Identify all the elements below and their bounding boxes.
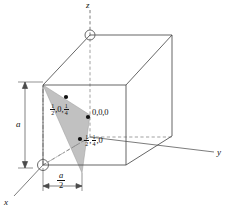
- circle-marker-top: [85, 30, 95, 40]
- hdim-arrow-left: [43, 184, 49, 189]
- y-axis-label: y: [217, 148, 221, 157]
- vdim-arrow-top: [22, 82, 27, 89]
- z-axis-label: z: [86, 1, 90, 10]
- x-axis-label: x: [4, 198, 8, 207]
- crystallography-figure: z y x 1 2 ,0, 1 4 0,0,0 1 2 , 1 4 ,0 a a…: [0, 0, 231, 216]
- figure-canvas: [0, 0, 231, 216]
- fraction-a-over-2: a 2: [57, 171, 65, 190]
- vertical-dimension-line: [18, 82, 43, 168]
- dot-half-0-quarter: [64, 95, 68, 99]
- vdim-arrow-bottom: [22, 162, 27, 169]
- point-label-half-quarter-0: 1 2 , 1 4 ,0: [84, 134, 103, 147]
- fraction-one-quarter-b: 1 4: [92, 134, 97, 147]
- dot-origin: [86, 115, 90, 119]
- horizontal-dimension-label: a 2: [57, 171, 65, 191]
- point-label-half-0-quarter: 1 2 ,0, 1 4: [50, 103, 69, 116]
- cube-edge-top-left-back: [43, 35, 90, 85]
- fraction-one-half-b: 1 2: [84, 134, 89, 147]
- point-label-origin: 0,0,0: [92, 108, 109, 117]
- dot-half-quarter-0: [78, 137, 82, 141]
- x-axis-line: [14, 165, 43, 196]
- vertical-dimension-label: a: [16, 120, 21, 129]
- cube-edge-bottom-right: [126, 136, 172, 165]
- coord-mid-a: ,0,: [55, 104, 63, 114]
- cube-edge-top-front-right: [126, 35, 172, 85]
- fraction-one-quarter-a: 1 4: [64, 103, 69, 116]
- coord-tail-b: ,0: [97, 135, 103, 145]
- y-axis-line: [90, 137, 214, 152]
- fraction-one-half-a: 1 2: [50, 103, 55, 116]
- hdim-arrow-right: [76, 184, 82, 189]
